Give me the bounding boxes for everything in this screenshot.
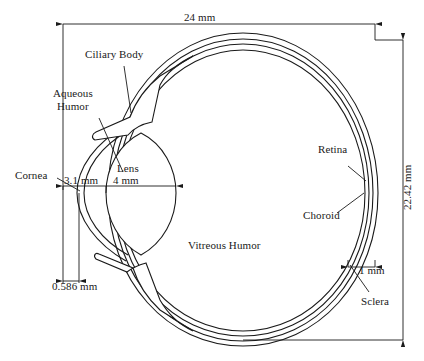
dim-label-4mm: 4 mm xyxy=(113,174,139,187)
leader-ciliary-body xyxy=(124,66,131,113)
label-aqueous-humor-line1: Aqueous xyxy=(53,87,93,100)
label-cornea: Cornea xyxy=(15,169,47,182)
label-ciliary-body: Ciliary Body xyxy=(85,48,143,61)
label-choroid: Choroid xyxy=(303,209,340,222)
dim-label-3-1mm: 3.1 mm xyxy=(64,174,98,187)
eye-diagram: 24 mm 22.42 mm 3.1 mm 4 mm 0.586 mm 1 mm… xyxy=(0,0,424,361)
label-aqueous-humor: Aqueous Humor xyxy=(53,87,93,112)
lens-outline xyxy=(106,133,176,255)
dim-label-0-586mm: 0.586 mm xyxy=(52,280,97,293)
label-aqueous-humor-line2: Humor xyxy=(53,100,93,113)
lens-shape xyxy=(106,133,176,255)
ciliary-upper xyxy=(92,56,193,140)
label-sclera: Sclera xyxy=(361,295,389,308)
ciliary-lower xyxy=(95,253,193,331)
dim-label-24mm: 24 mm xyxy=(184,11,215,24)
leader-choroid xyxy=(337,193,364,213)
label-lens: Lens xyxy=(117,162,139,175)
dim-label-22-42mm: 22.42 mm xyxy=(401,165,414,210)
dim-label-1mm: 1 mm xyxy=(359,264,385,277)
label-vitreous-humor: Vitreous Humor xyxy=(188,239,261,252)
label-retina: Retina xyxy=(318,143,347,156)
